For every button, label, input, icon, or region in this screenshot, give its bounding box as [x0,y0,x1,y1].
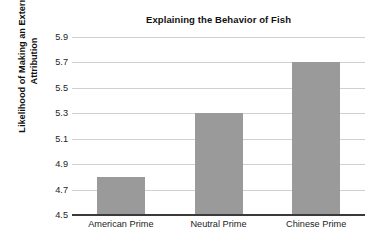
y-axis-tick-label: 4.9 [44,159,68,169]
y-axis-tick-labels: 5.95.75.55.35.14.94.74.5 [40,37,68,215]
y-axis-title-line-2: Attribution [28,38,41,85]
y-axis-tick-label: 5.9 [44,32,68,42]
gridline [72,37,365,38]
x-axis-tick-label: American Prime [72,219,170,229]
y-axis-tick-label: 5.1 [44,134,68,144]
x-axis-line [72,214,365,216]
y-axis-tick-label: 5.7 [44,57,68,67]
plot-area [72,37,365,215]
x-axis-tick-label: Neutral Prime [170,219,268,229]
bar[interactable] [292,62,340,215]
x-axis-tick-labels: American PrimeNeutral PrimeChinese Prime [72,219,365,235]
bar[interactable] [195,113,243,215]
bar-chart-figure: Explaining the Behavior of Fish Likeliho… [0,0,383,247]
y-axis-tick-label: 4.5 [44,210,68,220]
y-axis-tick-label: 5.3 [44,108,68,118]
x-axis-tick-label: Chinese Prime [267,219,365,229]
y-axis-tick-label: 5.5 [44,83,68,93]
bar[interactable] [97,177,145,215]
chart-title: Explaining the Behavior of Fish [72,14,365,25]
y-axis-tick-label: 4.7 [44,185,68,195]
y-axis-title: Likelihood of Making an External Attribu… [15,0,41,141]
y-axis-title-line-1: Likelihood of Making an External [16,0,29,133]
